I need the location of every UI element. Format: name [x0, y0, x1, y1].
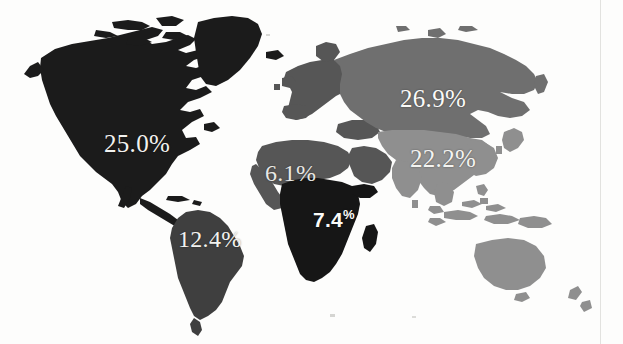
south-america-southern-cone	[190, 318, 202, 336]
new-zealand	[568, 286, 592, 312]
world-map-canvas	[0, 0, 623, 344]
novaya-zemlya	[428, 28, 446, 38]
sri-lanka	[412, 200, 418, 208]
sub-saharan-africa-mainland	[280, 178, 360, 282]
greenland	[194, 16, 262, 86]
philippines	[476, 184, 488, 204]
north-america-mainland	[40, 27, 214, 208]
papua-new-guinea	[518, 216, 552, 228]
korea-japan	[496, 128, 524, 154]
china-east-coast	[464, 140, 498, 176]
tasmania	[514, 292, 530, 302]
middle-east-arabia	[348, 146, 392, 184]
region-north-america[interactable]	[24, 16, 284, 228]
kamchatka-peninsula	[534, 74, 548, 94]
world-map-figure: 25.0% 12.4% 6.1% 7.4% 26.9% 22.2%	[0, 0, 623, 344]
region-sub-saharan-africa[interactable]	[280, 178, 378, 282]
scandinavia	[316, 42, 340, 62]
south-america-mainland	[170, 210, 244, 320]
region-south-america[interactable]	[170, 210, 244, 336]
australia-mainland	[474, 238, 546, 290]
newfoundland	[204, 122, 220, 132]
caribbean-islands	[166, 196, 202, 206]
region-russia-northern-asia[interactable]	[334, 26, 548, 138]
iceland	[266, 50, 284, 60]
madagascar	[362, 224, 378, 252]
horn-of-africa	[352, 184, 378, 198]
scan-edge-line	[600, 0, 601, 344]
region-south-east-asia-oceania[interactable]	[378, 128, 592, 312]
